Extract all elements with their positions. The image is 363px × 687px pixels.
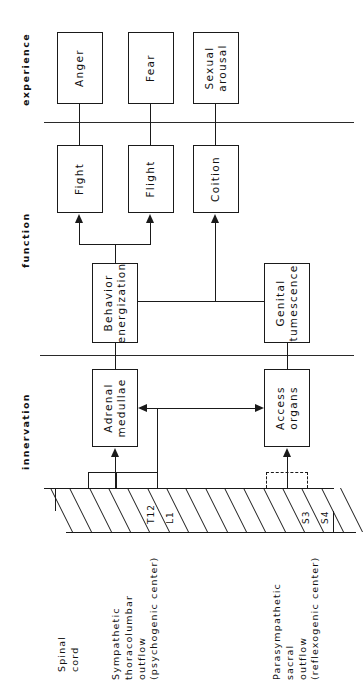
function-box-flight-label: Flight xyxy=(144,160,157,197)
cord-segment-divider xyxy=(243,488,266,532)
cord-segment-label: T12 xyxy=(146,504,156,524)
experience-box-anger-label: Anger xyxy=(73,49,86,87)
mediator-box-genital-tumescence: Genital tumescence xyxy=(264,263,310,343)
cord-rail-top xyxy=(44,488,334,489)
bracket-sympathetic-right xyxy=(116,472,158,488)
arrowshaft-to-flight xyxy=(150,223,151,245)
fork-stem-behavior xyxy=(115,244,116,264)
tick-behavior-divider xyxy=(115,343,116,369)
link-behavior-to-genital xyxy=(138,301,264,302)
divider-function-innervation xyxy=(40,355,354,356)
connector-fear-to-divider xyxy=(150,104,151,122)
cord-segment-divider xyxy=(166,488,189,532)
arrowshaft-to-coition xyxy=(215,223,216,301)
experience-box-anger: Anger xyxy=(57,32,103,104)
bracket-parasympathetic xyxy=(266,472,308,488)
mediator-box-behavior-energization-label: Behavior energization xyxy=(102,263,128,344)
cord-segment-divider xyxy=(89,488,112,532)
section-label-innervation: innervation xyxy=(20,393,31,470)
arrowhead-to-access-organs xyxy=(255,404,264,412)
caption-sympathetic: Sympathetic thoracolumbar outflow (psych… xyxy=(110,557,161,680)
arrowhead-to-flight xyxy=(146,214,154,223)
mediator-box-behavior-energization: Behavior energization xyxy=(92,263,138,343)
cord-tip-rostral xyxy=(55,489,56,511)
function-box-coition-label: Coition xyxy=(209,156,222,202)
mediator-box-genital-tumescence-label: Genital tumescence xyxy=(274,264,300,341)
innervation-box-access-organs: Access organs xyxy=(264,369,310,447)
experience-box-sexual-arousal-label: Sexual arousal xyxy=(203,44,229,92)
section-label-experience: experience xyxy=(20,33,31,106)
cord-segment-divider xyxy=(205,488,228,532)
cord-segment-label: S4 xyxy=(320,511,330,524)
divider-experience-function xyxy=(44,122,354,123)
cord-tip-caudal xyxy=(333,511,334,533)
arrowhead-to-adrenal-from-cord xyxy=(111,448,119,457)
function-box-coition: Coition xyxy=(193,145,239,213)
cord-segment-divider xyxy=(50,488,73,532)
connector-sexual-arousal-to-divider xyxy=(215,104,216,122)
caption-parasympathetic: Parasympathetic sacral outflow (reflexog… xyxy=(271,557,322,680)
tick-flight-divider xyxy=(150,122,151,145)
cord-segment-divider xyxy=(263,488,286,532)
cord-rail-bottom xyxy=(66,532,356,533)
arrowhead-to-coition xyxy=(211,214,219,223)
cord-segment-divider xyxy=(224,488,247,532)
caption-spinal-cord: Spinal cord xyxy=(56,636,82,672)
link-adrenal-access xyxy=(147,408,257,409)
spinal-cord-ladder: T12L1S3S4 xyxy=(44,488,354,534)
bracket-sympathetic-left xyxy=(88,472,116,488)
cord-segment-label: L1 xyxy=(165,511,175,524)
function-box-fight: Fight xyxy=(57,145,103,213)
function-box-flight: Flight xyxy=(128,145,174,213)
tick-genital-divider xyxy=(287,343,288,369)
arrowhead-to-fight xyxy=(75,214,83,223)
tick-fight-divider xyxy=(79,122,80,145)
innervation-box-access-organs-label: Access organs xyxy=(274,386,300,430)
tick-coition-divider xyxy=(215,122,216,145)
experience-box-sexual-arousal: Sexual arousal xyxy=(193,32,239,104)
arrowhead-to-adrenal-medullae xyxy=(138,404,147,412)
cord-segment-divider xyxy=(69,488,92,532)
connector-anger-to-divider xyxy=(79,104,80,122)
cord-segment-divider xyxy=(185,488,208,532)
cord-segment-divider xyxy=(340,488,363,532)
innervation-box-adrenal-medullae-label: Adrenal medullae xyxy=(102,378,128,437)
cord-segment-divider xyxy=(108,488,131,532)
arrowshaft-to-fight xyxy=(79,223,80,245)
function-box-fight-label: Fight xyxy=(73,163,86,195)
section-label-function: function xyxy=(20,212,31,268)
experience-box-fear-label: Fear xyxy=(144,54,157,82)
arrowhead-to-access-from-cord xyxy=(283,448,291,457)
innervation-box-adrenal-medullae: Adrenal medullae xyxy=(92,369,138,447)
experience-box-fear: Fear xyxy=(128,32,174,104)
cord-segment-label: S3 xyxy=(301,511,311,524)
